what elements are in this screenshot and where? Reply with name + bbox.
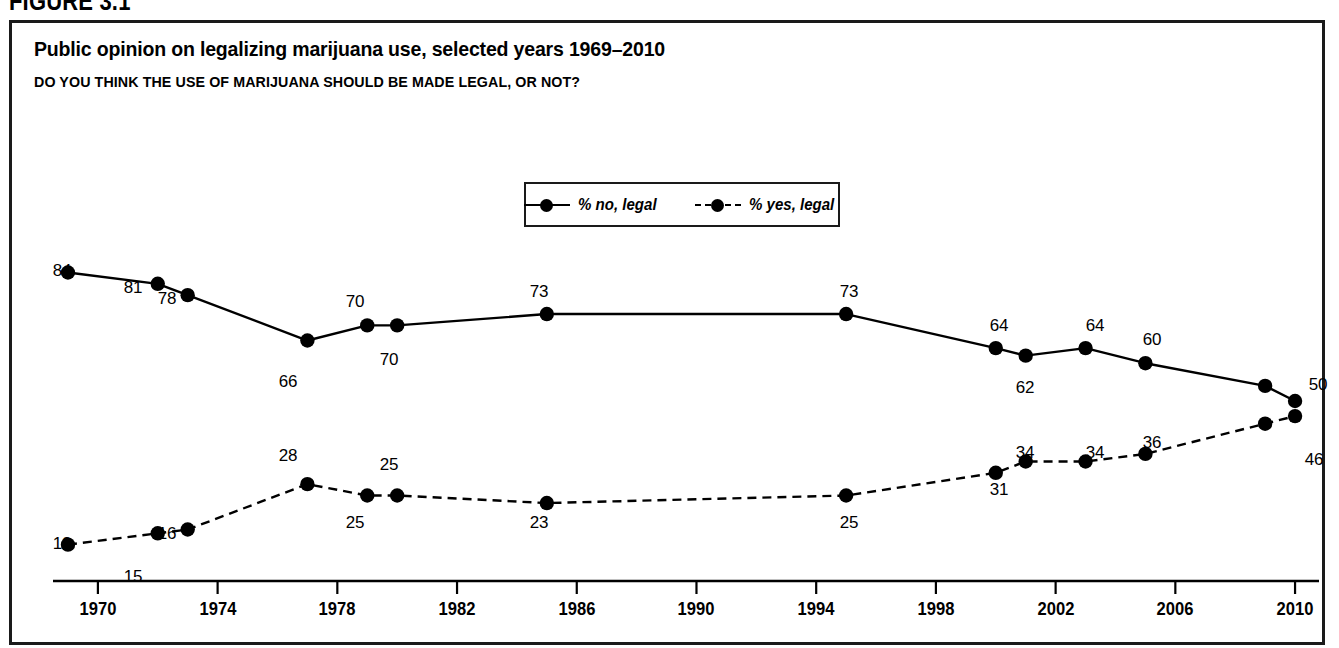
legend-label-yes-legal: % yes, legal xyxy=(749,196,834,214)
data-point-marker xyxy=(390,318,404,332)
x-axis-tick-label: 1986 xyxy=(558,599,595,620)
chart-canvas xyxy=(12,23,1328,648)
data-point-marker xyxy=(839,307,853,321)
data-point-marker xyxy=(540,307,554,321)
data-point-label: 25 xyxy=(380,455,398,475)
x-axis-tick-label: 1982 xyxy=(439,599,476,620)
data-point-label: 70 xyxy=(380,350,398,370)
data-point-marker xyxy=(360,488,374,502)
data-point-marker xyxy=(300,333,314,347)
series-line-no-legal xyxy=(68,272,1295,401)
legend-entry-no-legal[interactable]: % no, legal xyxy=(524,196,662,214)
data-point-label: 64 xyxy=(990,316,1008,336)
data-point-marker xyxy=(1288,409,1302,423)
figure-subtitle: DO YOU THINK THE USE OF MARIJUANA SHOULD… xyxy=(34,73,580,91)
data-point-marker xyxy=(989,341,1003,355)
data-point-marker xyxy=(61,537,75,551)
data-point-label: 64 xyxy=(1086,316,1104,336)
data-point-label: 15 xyxy=(124,567,142,587)
data-point-label: 34 xyxy=(1016,443,1034,463)
data-point-label: 81 xyxy=(124,278,142,298)
page-title: Public opinion on legalizing marijuana u… xyxy=(34,37,665,61)
x-axis-tick-label: 1998 xyxy=(917,599,954,620)
data-point-marker xyxy=(151,526,165,540)
data-point-marker xyxy=(989,466,1003,480)
x-axis-tick-label: 2002 xyxy=(1037,599,1074,620)
figure-box: Public opinion on legalizing marijuana u… xyxy=(9,20,1325,645)
data-point-marker xyxy=(61,265,75,279)
legend-entry-yes-legal[interactable]: % yes, legal xyxy=(695,196,840,214)
data-point-label: 36 xyxy=(1143,433,1161,453)
data-point-label: 70 xyxy=(346,292,364,312)
x-axis-tick-label: 1994 xyxy=(798,599,835,620)
legend-line-dashed-icon xyxy=(695,198,741,212)
data-point-label: 34 xyxy=(1086,443,1104,463)
data-point-marker xyxy=(1018,348,1032,362)
data-point-marker xyxy=(390,488,404,502)
data-point-marker xyxy=(1018,454,1032,468)
x-axis-tick-label: 2006 xyxy=(1157,599,1194,620)
data-point-label: 78 xyxy=(158,289,176,309)
x-axis-tick-label: 1978 xyxy=(319,599,356,620)
data-point-label: 23 xyxy=(530,513,548,533)
data-point-label: 16 xyxy=(158,524,176,544)
data-point-marker xyxy=(1078,454,1092,468)
data-point-marker xyxy=(540,496,554,510)
data-point-label: 84 xyxy=(53,261,71,281)
data-point-marker xyxy=(300,477,314,491)
data-point-label: 50 xyxy=(1309,375,1327,395)
data-point-marker xyxy=(360,318,374,332)
plot-area: 8481786670707373646264605012151628252523… xyxy=(12,23,1328,648)
data-point-marker xyxy=(1138,356,1152,370)
x-axis-tick-label: 1970 xyxy=(79,599,116,620)
data-point-marker xyxy=(180,288,194,302)
x-axis-tick-label: 1990 xyxy=(678,599,715,620)
data-point-label: 12 xyxy=(53,534,71,554)
data-point-label: 73 xyxy=(840,282,858,302)
data-point-marker xyxy=(1258,416,1272,430)
data-point-label: 46 xyxy=(1305,450,1323,470)
legend-line-solid-icon xyxy=(524,198,570,212)
data-point-marker xyxy=(1078,341,1092,355)
data-point-marker xyxy=(1138,447,1152,461)
data-point-label: 25 xyxy=(840,513,858,533)
figure-number-caption: FIGURE 3.1 xyxy=(9,0,131,16)
data-point-label: 66 xyxy=(279,372,297,392)
x-axis-tick-label: 1974 xyxy=(199,599,236,620)
data-point-marker xyxy=(180,522,194,536)
data-point-label: 73 xyxy=(530,282,548,302)
data-point-label: 60 xyxy=(1143,330,1161,350)
data-point-marker xyxy=(1288,394,1302,408)
data-point-label: 62 xyxy=(1016,378,1034,398)
data-point-marker xyxy=(839,488,853,502)
data-point-label: 28 xyxy=(279,446,297,466)
chart-legend: % no, legal % yes, legal xyxy=(524,182,840,227)
legend-label-no-legal: % no, legal xyxy=(578,196,657,214)
series-line-yes-legal xyxy=(68,416,1295,545)
data-point-marker xyxy=(1258,379,1272,393)
data-point-marker xyxy=(151,277,165,291)
x-axis-tick-label: 2010 xyxy=(1277,599,1314,620)
data-point-label: 25 xyxy=(346,513,364,533)
data-point-label: 31 xyxy=(990,480,1008,500)
